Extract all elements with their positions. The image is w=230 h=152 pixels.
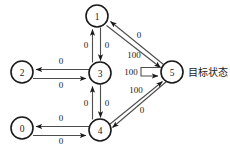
edge-label-0-4: 0 — [59, 136, 64, 146]
edge-label-3-4: 0 — [105, 98, 110, 108]
edge-4-to-5: 100 — [110, 82, 163, 125]
edge-label-4-3: 0 — [84, 98, 89, 108]
node-0[interactable]: 0 — [11, 117, 33, 139]
diagram-canvas: 0 0 0 0 0 0 0 — [0, 0, 230, 152]
edge-3-to-1: 0 — [84, 30, 93, 63]
node-3[interactable]: 3 — [89, 62, 111, 84]
edge-label-1-3: 0 — [105, 40, 110, 50]
node-4[interactable]: 4 — [89, 119, 111, 141]
node-3-label: 3 — [98, 69, 103, 79]
node-4-label: 4 — [98, 126, 103, 136]
edge-4-to-0: 0 — [36, 113, 89, 127]
node-1-label: 1 — [95, 12, 100, 22]
edge-3-to-4: 0 — [101, 85, 110, 118]
edge-5-self-loop: 100 — [124, 67, 163, 77]
edge-2-to-3: 0 — [33, 79, 86, 91]
edge-0-to-4: 0 — [33, 136, 86, 147]
goal-state-annotation: 目标状态 — [188, 66, 228, 78]
edge-1-to-3: 0 — [101, 28, 110, 61]
edge-4-to-3: 0 — [84, 87, 93, 120]
edge-label-5-1: 0 — [137, 30, 142, 40]
edge-label-3-2: 0 — [59, 56, 64, 66]
node-0-label: 0 — [20, 124, 25, 134]
node-5[interactable]: 5 — [161, 61, 183, 83]
node-2[interactable]: 2 — [11, 61, 33, 83]
state-transition-diagram: 0 0 0 0 0 0 0 — [0, 0, 230, 152]
node-5-label: 5 — [170, 68, 175, 78]
edge-label-4-5: 100 — [129, 85, 143, 95]
edge-1-to-5: 100 — [107, 26, 161, 68]
node-2-label: 2 — [20, 68, 25, 78]
node-1[interactable]: 1 — [86, 5, 108, 27]
edge-label-3-1: 0 — [84, 40, 89, 50]
edge-label-5-5: 100 — [124, 67, 138, 77]
edge-label-4-0: 0 — [59, 113, 64, 123]
edge-3-to-2: 0 — [36, 56, 89, 70]
edge-label-1-5: 100 — [127, 50, 141, 60]
edge-label-2-3: 0 — [59, 80, 64, 90]
edge-label-5-4: 0 — [140, 105, 145, 115]
